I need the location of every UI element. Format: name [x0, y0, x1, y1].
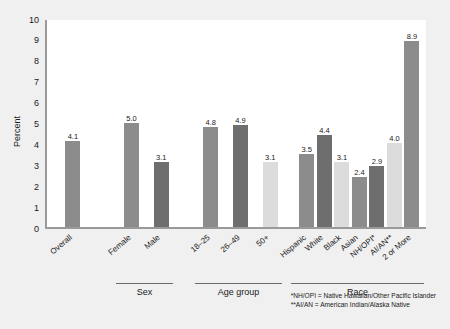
bar-value-label: 4.1: [59, 132, 87, 141]
bar: [369, 166, 384, 227]
x-tick-label: Overall: [48, 233, 73, 256]
y-tick-label: 3: [15, 162, 39, 171]
x-tick-label: White: [304, 233, 325, 253]
y-tick-label: 1: [15, 204, 39, 213]
bar-value-label: 3.1: [256, 153, 284, 162]
y-tick-label: 8: [15, 57, 39, 66]
bar-value-label: 4.4: [310, 126, 338, 135]
bar: [233, 125, 248, 227]
x-tick-label: Female: [106, 233, 132, 257]
y-tick-label: 6: [15, 99, 39, 108]
group-label: Sex: [116, 287, 174, 297]
group-bracket-rule: [116, 283, 174, 284]
bar: [65, 141, 80, 227]
group-bracket-rule: [195, 283, 282, 284]
x-tick-label: Black: [322, 233, 343, 252]
bar: [203, 127, 218, 227]
bar: [387, 143, 402, 227]
chart-figure: 4.15.03.14.84.93.13.54.43.12.42.94.08.9 …: [0, 0, 450, 329]
bar-value-label: 4.8: [197, 118, 225, 127]
y-tick-label: 0: [15, 225, 39, 234]
y-tick-label: 10: [15, 16, 39, 25]
bar: [299, 154, 314, 227]
bar-value-label: 4.9: [227, 116, 255, 125]
bar: [124, 123, 139, 228]
footnotes: *NH/OPI = Native Hawaiian/Other Pacific …: [291, 292, 436, 309]
footnote: **AI/AN = American Indian/Alaska Native: [291, 301, 436, 310]
y-tick-label: 9: [15, 36, 39, 45]
bar-value-label: 5.0: [118, 114, 146, 123]
y-tick-label: 2: [15, 183, 39, 192]
x-tick-label: 18–25: [189, 233, 212, 254]
bar: [404, 41, 419, 227]
plot-area: 4.15.03.14.84.93.13.54.43.12.42.94.08.9: [45, 20, 426, 229]
bar: [263, 162, 278, 227]
x-tick-label: 50+: [255, 233, 271, 249]
x-tick-label: 26–49: [219, 233, 242, 254]
bar-value-label: 3.1: [147, 153, 175, 162]
bar: [154, 162, 169, 227]
y-tick-label: 7: [15, 78, 39, 87]
footnote: *NH/OPI = Native Hawaiian/Other Pacific …: [291, 292, 436, 301]
y-axis-title: Percent: [12, 115, 22, 146]
bars-layer: 4.15.03.14.84.93.13.54.43.12.42.94.08.9: [47, 20, 426, 227]
bar-value-label: 3.1: [328, 153, 356, 162]
bar: [317, 135, 332, 227]
group-label: Age group: [195, 287, 282, 297]
group-bracket-rule: [291, 283, 424, 284]
x-tick-label: Male: [143, 233, 162, 251]
bar: [352, 177, 367, 227]
bar-value-label: 8.9: [398, 32, 426, 41]
